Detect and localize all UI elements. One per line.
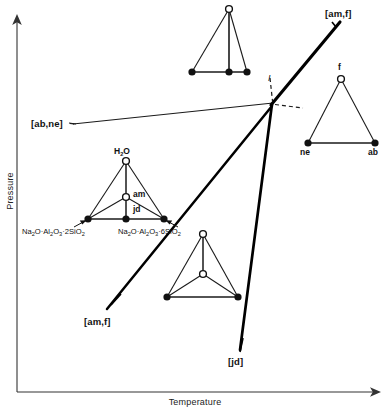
bottom-tetra-interior-node <box>200 271 207 278</box>
formula-right-s2: 2 <box>146 231 149 237</box>
left-tetra-am-to-right <box>126 197 164 219</box>
vertex-label-f: f <box>338 63 341 72</box>
assemblage-bottom-tetrahedron <box>163 231 241 301</box>
assemblage-left-tetrahedron <box>74 158 178 227</box>
formula-left-s4: 2 <box>82 231 85 237</box>
vertex-label-ab: ab <box>368 148 378 157</box>
left-tetra-base-mid-node-jd <box>122 215 129 222</box>
bottom-tetra-right-node <box>234 293 241 300</box>
formula-label-right: Na2O·Al2O3·6SiO2 <box>118 228 181 236</box>
top-tetra-right-edge <box>229 9 247 72</box>
h2o-subscript: 2 <box>120 151 123 157</box>
top-tetra-right-node <box>243 68 250 75</box>
formula-left-arrowhead <box>80 220 87 224</box>
formula-left-s2: 2 <box>50 231 53 237</box>
left-tetra-interior-node-am <box>123 194 130 201</box>
formula-right-s3: 3 <box>155 231 158 237</box>
bottom-tetra-apex-node <box>200 231 207 238</box>
formula-left-p1: Na <box>22 227 32 236</box>
right-tri-apex-node-f <box>338 76 345 83</box>
bottom-tetra-left-node <box>163 293 170 300</box>
right-tri-left-node-ne <box>304 139 311 146</box>
formula-right-p4: ·6SiO <box>158 227 177 236</box>
formula-right-p2: O·Al <box>131 227 146 236</box>
left-tetra-am-to-left <box>88 197 126 219</box>
curve-label-ab-ne: [ab,ne] <box>31 119 63 129</box>
temperature-axis-label: Temperature <box>150 397 240 407</box>
phase-diagram-figure: Pressure Temperature I [ab,ne] [am,f] [a… <box>0 0 390 417</box>
right-tri-left-edge <box>308 79 341 143</box>
formula-left-s3: 3 <box>59 231 62 237</box>
bottom-tetra-interior-to-left <box>167 274 203 297</box>
formula-right-arrowhead <box>166 220 173 224</box>
h2o-o: O <box>123 146 130 156</box>
right-tri-right-edge <box>341 79 375 143</box>
curve-label-am-f-upper: [am,f] <box>325 9 351 19</box>
right-tri-right-node-ab <box>371 139 378 146</box>
top-tetra-mid-node <box>225 68 232 75</box>
left-tetra-base-left-node <box>84 215 91 222</box>
curve-am-f-lower <box>107 106 272 309</box>
top-tetra-left-node <box>188 68 195 75</box>
curve-ab-ne <box>73 103 273 124</box>
vertex-label-h2o: H2O <box>114 147 130 156</box>
assemblage-right-triangle <box>304 76 378 147</box>
formula-right-s4: 2 <box>178 231 181 237</box>
assemblage-top-tetrahedron <box>188 6 250 76</box>
vertex-label-ne: ne <box>300 148 310 157</box>
formula-right-p1: Na <box>118 227 128 236</box>
leader-lines-group <box>69 123 76 124</box>
left-tetra-apex-node-h2o <box>123 158 130 165</box>
left-tetra-left-edge <box>88 161 126 219</box>
leader-am-f-upper <box>332 22 336 27</box>
bottom-tetra-interior-to-right <box>203 274 238 297</box>
formula-left-s1: 2 <box>32 231 35 237</box>
bottom-tetra-left-edge <box>167 234 203 297</box>
curve-label-am-f-lower: [am,f] <box>84 317 110 327</box>
bottom-tetra-right-edge <box>203 234 238 297</box>
leader-am-f-lower <box>111 294 121 305</box>
pressure-axis-label: Pressure <box>5 161 15 221</box>
diagram-canvas <box>0 0 390 417</box>
top-tetra-apex-node <box>226 6 233 13</box>
invariant-point-label: I <box>268 74 271 83</box>
top-tetra-left-edge <box>192 9 229 72</box>
formula-label-left: Na2O·Al2O3·2SiO2 <box>22 228 85 236</box>
curve-label-jd: [jd] <box>228 357 243 367</box>
vertex-label-jd: jd <box>133 205 141 214</box>
curve-am-f-upper <box>271 22 340 105</box>
formula-left-p4: ·2SiO <box>62 227 81 236</box>
vertex-label-am: am <box>133 190 145 199</box>
metastable-extension-horizontal <box>275 105 303 109</box>
formula-right-s1: 2 <box>128 231 131 237</box>
left-tetra-base-right-node <box>160 215 167 222</box>
formula-left-p2: O·Al <box>35 227 50 236</box>
